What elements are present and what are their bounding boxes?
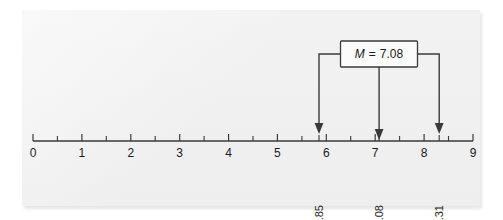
axis-tick-label-1: 1 — [79, 146, 86, 160]
axis-tick-label-2: 2 — [127, 146, 134, 160]
leader-line-upper — [418, 54, 440, 124]
arrow-head-lower — [315, 123, 324, 134]
arrow-head-mean — [375, 129, 384, 140]
axis-tick-label-5: 5 — [274, 146, 281, 160]
number-line-chart: 0 1 2 3 4 5 6 7 8 9 — [0, 0, 503, 220]
mean-separator: = — [369, 47, 376, 61]
axis-tick-label-8: 8 — [421, 146, 428, 160]
figure-root: 0 1 2 3 4 5 6 7 8 9 — [0, 0, 503, 220]
value-label-lower: 5.85 — [313, 205, 325, 220]
mean-symbol: M — [355, 47, 365, 61]
axis-tick-labels: 0 1 2 3 4 5 6 7 8 9 — [30, 146, 477, 160]
axis-tick-label-9: 9 — [470, 146, 477, 160]
mean-value: 7.08 — [380, 47, 404, 61]
axis-tick-label-6: 6 — [323, 146, 330, 160]
axis-tick-label-0: 0 — [30, 146, 37, 160]
arrow-head-upper — [435, 123, 444, 134]
axis-tick-label-7: 7 — [372, 146, 379, 160]
mean-callout-label: M=7.08 — [355, 47, 404, 61]
axis-tick-label-3: 3 — [176, 146, 183, 160]
value-label-upper: 8.31 — [433, 205, 445, 220]
axis-tick-label-4: 4 — [225, 146, 232, 160]
value-label-group: 5.85 7.08 8.31 — [313, 205, 445, 220]
value-label-mean: 7.08 — [373, 205, 385, 220]
leader-line-lower — [319, 54, 341, 124]
